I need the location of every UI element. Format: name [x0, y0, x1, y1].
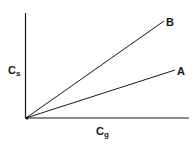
- series-b-line: [26, 21, 164, 118]
- y-axis-label: Cs: [8, 64, 21, 78]
- series-b-label: B: [166, 16, 174, 28]
- series-a-label: A: [177, 65, 185, 77]
- series-a-line: [26, 70, 175, 118]
- x-axis-label: Cg: [96, 125, 109, 139]
- chart: B A Cs Cg: [0, 0, 196, 147]
- origin-dot: [25, 116, 28, 119]
